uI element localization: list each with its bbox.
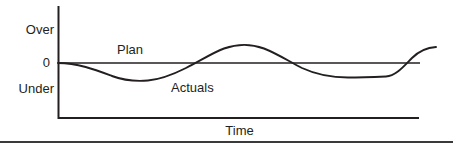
figure-container: Over 0 Under Plan Actuals Time — [0, 0, 453, 147]
series-label-plan: Plan — [117, 43, 143, 57]
y-axis-label-zero: 0 — [43, 56, 50, 70]
y-axis-label-over: Over — [26, 23, 54, 37]
y-axis-label-under: Under — [19, 82, 54, 96]
x-axis-label-time: Time — [0, 124, 453, 138]
series-label-actuals: Actuals — [171, 81, 214, 95]
